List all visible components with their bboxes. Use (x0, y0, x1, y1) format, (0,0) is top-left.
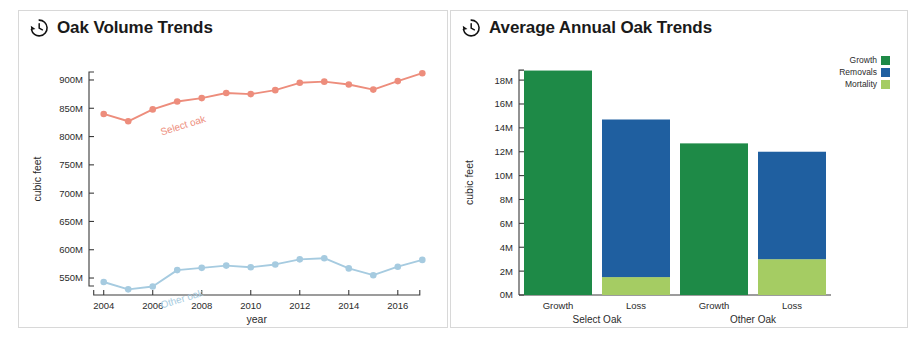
data-point (247, 264, 254, 271)
data-point (149, 283, 156, 290)
bar-segment-removals (602, 120, 670, 278)
x-axis-line (94, 290, 420, 295)
legend-swatch-removals (881, 68, 890, 77)
y-axis-tick-label: 16M (495, 98, 514, 109)
bar-segment-mortality (602, 277, 670, 295)
x-axis-tick-label: 2014 (338, 300, 359, 311)
panel-left-title: Oak Volume Trends (57, 18, 213, 38)
line-chart-svg: 550M600M650M700M750M800M850M900Mcubic fe… (19, 45, 449, 329)
bar-group-label: Select Oak (573, 314, 623, 325)
history-clock-icon (28, 17, 50, 39)
legend-label-growth: Growth (850, 55, 878, 65)
data-point (100, 111, 107, 118)
data-point (394, 78, 401, 85)
x-axis-tick-label: 2016 (387, 300, 408, 311)
y-axis-tick-label: 10M (495, 170, 514, 181)
y-axis-tick-label: 2M (500, 266, 513, 277)
bar-segment-growth (524, 71, 592, 295)
screenshot-root: Oak Volume Trends 550M600M650M700M750M80… (0, 0, 920, 341)
line-chart-oak-volume: 550M600M650M700M750M800M850M900Mcubic fe… (19, 45, 449, 329)
data-point (296, 256, 303, 263)
legend-label-mortality: Mortality (845, 79, 878, 89)
data-point (321, 78, 328, 85)
bar-group-label: Other Oak (730, 314, 777, 325)
y-axis-tick-label: 14M (495, 122, 514, 133)
bar-segment-removals (758, 152, 826, 259)
y-axis-line (89, 72, 94, 286)
data-point (198, 265, 205, 272)
panel-right-title: Average Annual Oak Trends (489, 18, 712, 38)
x-axis-tick-label: 2004 (93, 300, 114, 311)
data-point (345, 81, 352, 88)
y-axis-tick-label: 700M (59, 188, 83, 199)
y-axis-tick-label: 800M (59, 131, 83, 142)
panel-average-annual-oak-trends: Average Annual Oak Trends 0M2M4M6M8M10M1… (450, 10, 908, 328)
legend-swatch-mortality (881, 80, 890, 89)
series-annotation-select-oak: Select oak (159, 113, 208, 137)
data-point (223, 262, 230, 269)
bar-segment-mortality (758, 259, 826, 295)
panel-oak-volume-trends: Oak Volume Trends 550M600M650M700M750M80… (18, 10, 448, 328)
y-axis-tick-label: 850M (59, 103, 83, 114)
y-axis-tick-label: 8M (500, 194, 513, 205)
y-axis-title: cubic feet (463, 160, 475, 205)
data-point (370, 86, 377, 93)
line-series-select-oak (104, 73, 423, 121)
y-axis-tick-label: 750M (59, 159, 83, 170)
bar-chart-svg: 0M2M4M6M8M10M12M14M16M18Mcubic feetGrowt… (451, 45, 909, 329)
y-axis-tick-label: 0M (500, 289, 513, 300)
legend-label-removals: Removals (839, 67, 877, 77)
data-point (174, 98, 181, 105)
bar-category-label: Growth (699, 300, 730, 311)
history-clock-icon (460, 17, 482, 39)
data-point (419, 70, 426, 77)
panel-right-header: Average Annual Oak Trends (451, 11, 712, 45)
data-point (370, 272, 377, 279)
data-point (419, 257, 426, 264)
bar-category-label: Growth (543, 300, 574, 311)
data-point (247, 91, 254, 98)
data-point (198, 95, 205, 102)
data-point (345, 265, 352, 272)
data-point (100, 279, 107, 286)
legend-swatch-growth (881, 56, 890, 65)
data-point (223, 90, 230, 97)
y-axis-tick-label: 650M (59, 216, 83, 227)
y-axis-tick-label: 4M (500, 242, 513, 253)
y-axis-tick-label: 12M (495, 146, 514, 157)
bar-segment-growth (680, 143, 748, 295)
data-point (296, 80, 303, 87)
data-point (272, 261, 279, 268)
y-axis-tick-label: 900M (59, 74, 83, 85)
bar-category-label: Loss (782, 300, 802, 311)
bar-chart-average-annual-oak: 0M2M4M6M8M10M12M14M16M18Mcubic feetGrowt… (451, 45, 909, 329)
data-point (272, 87, 279, 94)
x-axis-tick-label: 2008 (191, 300, 212, 311)
x-axis-title: year (247, 313, 268, 325)
y-axis-tick-label: 6M (500, 218, 513, 229)
data-point (394, 263, 401, 270)
data-point (321, 255, 328, 262)
x-axis-tick-label: 2012 (289, 300, 310, 311)
y-axis-tick-label: 550M (59, 272, 83, 283)
data-point (125, 118, 132, 125)
data-point (174, 267, 181, 274)
y-axis-tick-label: 600M (59, 244, 83, 255)
y-axis-title: cubic feet (31, 156, 43, 201)
data-point (125, 286, 132, 293)
y-axis-tick-label: 18M (495, 75, 514, 86)
data-point (149, 106, 156, 113)
bar-category-label: Loss (626, 300, 646, 311)
panel-left-header: Oak Volume Trends (19, 11, 213, 45)
x-axis-tick-label: 2010 (240, 300, 261, 311)
